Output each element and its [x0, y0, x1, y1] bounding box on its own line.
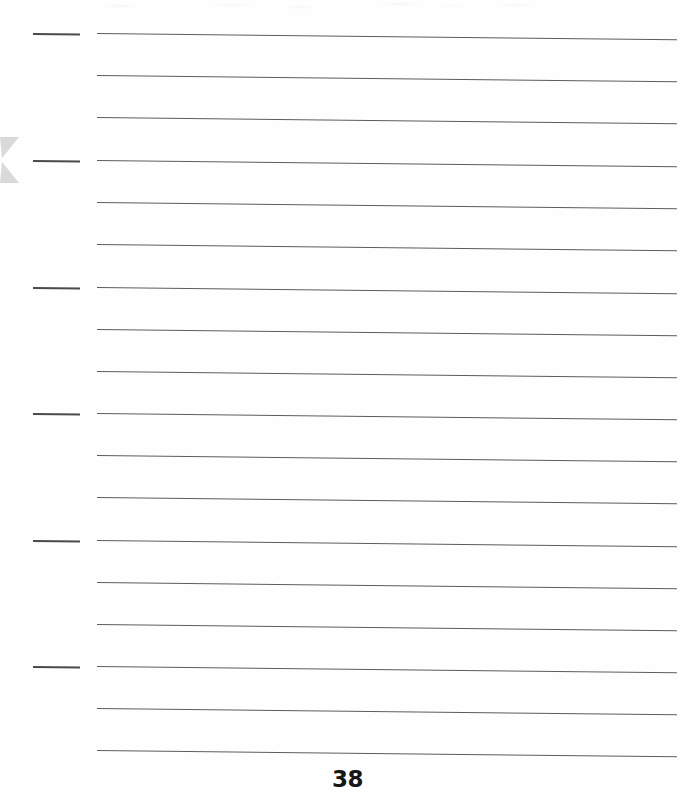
page-bleed-through: [0, 0, 695, 14]
rule-line: [97, 287, 677, 294]
rule-line: [97, 540, 677, 547]
rule-line: [97, 75, 677, 82]
rule-line: [97, 750, 677, 757]
rule-line: [97, 497, 677, 504]
rule-line: [97, 582, 677, 589]
margin-tick: [33, 33, 80, 36]
double-chevron-icon: [0, 137, 19, 183]
rule-line: [97, 624, 677, 631]
page-number: 38: [0, 766, 695, 792]
rule-line: [97, 117, 677, 124]
rule-line: [97, 666, 677, 673]
rule-line: [97, 371, 677, 378]
rule-line: [97, 160, 677, 167]
rule-line: [97, 413, 677, 420]
notebook-page: 38: [0, 0, 695, 805]
margin-tick: [33, 287, 80, 290]
rule-line: [97, 33, 677, 40]
margin-tick: [33, 540, 80, 543]
rule-line: [97, 455, 677, 462]
rule-line: [97, 244, 677, 251]
margin-tick: [33, 160, 80, 163]
margin-tick: [33, 666, 80, 669]
rule-line: [97, 708, 677, 715]
rule-line: [97, 202, 677, 209]
margin-tick: [33, 413, 80, 416]
rule-line: [97, 329, 677, 336]
left-edge-chevron-marker: [0, 137, 19, 183]
